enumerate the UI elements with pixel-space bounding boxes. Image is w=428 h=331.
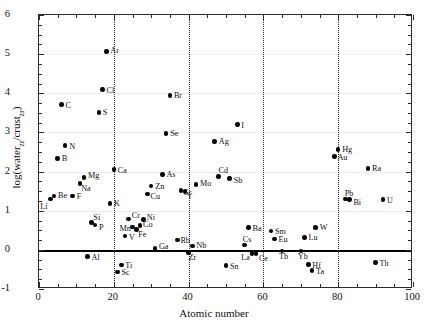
- y-tick-major: [39, 172, 44, 173]
- x-tick-top-minor: [95, 15, 96, 18]
- x-tick-top-minor: [133, 15, 134, 18]
- data-point-label: Cd: [219, 167, 229, 175]
- data-point: [115, 270, 120, 275]
- x-tick-major: [39, 282, 40, 287]
- data-point-label: Ga: [159, 243, 169, 251]
- y-tick-right-minor: [408, 113, 411, 114]
- data-point: [141, 217, 146, 222]
- data-point-label: Lu: [309, 234, 318, 242]
- data-point: [310, 268, 315, 273]
- data-point: [85, 254, 90, 259]
- x-tick-top-major: [114, 15, 115, 20]
- y-tick-minor: [39, 142, 42, 143]
- data-point-label: Ca: [118, 167, 127, 175]
- y-tick-minor: [39, 260, 42, 261]
- data-point-label: La: [241, 254, 250, 262]
- y-tick-right-major: [406, 132, 411, 133]
- y-tick-right-minor: [408, 279, 411, 280]
- x-tick-major: [263, 282, 264, 287]
- data-point: [302, 235, 307, 240]
- data-point-label: Ti: [125, 262, 132, 270]
- data-point-label: Sb: [234, 177, 243, 185]
- data-point: [100, 87, 105, 92]
- data-point-label: C: [65, 102, 70, 110]
- data-point-label: Fe: [138, 231, 146, 239]
- x-tick-minor: [357, 284, 358, 287]
- data-point-label: Na: [81, 185, 91, 193]
- x-tick-top-minor: [76, 15, 77, 18]
- y-tick-minor: [39, 64, 42, 65]
- data-point: [52, 194, 57, 199]
- y-tick-major: [39, 132, 44, 133]
- reference-line-vertical: [114, 15, 115, 287]
- data-point-label: F: [77, 193, 82, 201]
- data-point-label: Cs: [243, 236, 252, 244]
- data-point: [381, 197, 386, 202]
- y-tick-right-major: [406, 15, 411, 16]
- y-axis-title-sub1: zr: [17, 141, 26, 147]
- data-point-label: B: [62, 155, 67, 163]
- data-point: [55, 156, 60, 161]
- y-tick-minor: [39, 240, 42, 241]
- y-tick-right-minor: [408, 152, 411, 153]
- x-tick-top-major: [338, 15, 339, 20]
- y-tick-minor: [39, 230, 42, 231]
- data-point: [246, 225, 251, 230]
- data-point-label: Yb: [298, 253, 308, 261]
- data-point: [123, 234, 128, 239]
- x-axis-title: Atomic number: [0, 307, 428, 319]
- y-tick-major: [39, 93, 44, 94]
- data-point: [119, 263, 124, 268]
- data-point: [108, 201, 113, 206]
- x-tick-top-minor: [282, 15, 283, 18]
- y-tick-minor: [39, 35, 42, 36]
- x-tick-minor: [151, 284, 152, 287]
- x-tick-label: 40: [168, 292, 208, 303]
- y-tick-minor: [39, 152, 42, 153]
- y-tick-right-major: [406, 54, 411, 55]
- x-tick-top-minor: [245, 15, 246, 18]
- y-tick-right-minor: [408, 181, 411, 182]
- y-axis-title-mid: /crust: [10, 116, 22, 140]
- data-point-label: S: [103, 109, 108, 117]
- plot-area: LiBeBCNFNaMgAlSiPSClArKCaScTiVCrMnFeCoNi…: [38, 14, 412, 288]
- gridline-horizontal: [39, 211, 411, 212]
- data-point-label: Cl: [107, 87, 115, 95]
- y-tick-right-minor: [408, 84, 411, 85]
- y-tick-right-minor: [408, 162, 411, 163]
- y-tick-minor: [39, 191, 42, 192]
- x-tick-label: 0: [18, 292, 58, 303]
- y-tick-minor: [39, 269, 42, 270]
- data-point-label: K: [114, 200, 120, 208]
- data-point-label: Mg: [88, 172, 99, 180]
- data-point: [373, 260, 378, 265]
- y-tick-minor: [39, 221, 42, 222]
- data-point-label: Hg: [342, 146, 352, 154]
- x-tick-top-major: [263, 15, 264, 20]
- x-tick-minor: [170, 284, 171, 287]
- x-tick-major: [338, 282, 339, 287]
- y-tick-minor: [39, 84, 42, 85]
- x-tick-minor: [95, 284, 96, 287]
- data-point: [194, 182, 199, 187]
- x-tick-minor: [282, 284, 283, 287]
- data-point: [347, 197, 352, 202]
- y-tick-right-minor: [408, 191, 411, 192]
- scatter-plot-figure: LiBeBCNFNaMgAlSiPSClArKCaScTiVCrMnFeCoNi…: [0, 0, 428, 331]
- data-point: [160, 172, 165, 177]
- x-tick-top-minor: [58, 15, 59, 18]
- data-point: [126, 217, 131, 222]
- data-point: [254, 251, 259, 256]
- y-tick-right-minor: [408, 103, 411, 104]
- data-point-label: Cu: [150, 193, 160, 201]
- data-point: [190, 244, 195, 249]
- data-point-label: Si: [93, 214, 100, 222]
- data-point-label: Ce: [259, 255, 268, 263]
- x-tick-top-minor: [226, 15, 227, 18]
- x-tick-top-minor: [301, 15, 302, 18]
- y-tick-minor: [39, 44, 42, 45]
- data-point-label: Th: [380, 260, 389, 268]
- data-point-label: Br: [174, 92, 182, 100]
- y-tick-label: 4: [0, 87, 10, 98]
- data-point-label: Sc: [122, 269, 130, 277]
